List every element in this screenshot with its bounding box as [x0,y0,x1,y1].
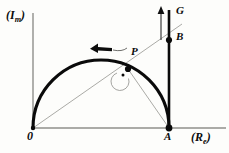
vector-g-label: G [176,5,184,16]
y-axis-label: (Im) [6,9,25,25]
semicircle-arc [33,60,169,128]
origin-label: 0 [27,130,33,142]
direction-arrow [90,44,112,54]
point-p-label: P [131,46,138,57]
point-p-marker [125,66,131,72]
figure-canvas: (Im) (Re) 0 A P B G [0,0,229,153]
right-angle-arc-marker [111,73,129,90]
x-axis-label: (Re) [191,131,211,147]
point-b-marker [166,37,172,43]
vector-g-arrowhead [158,6,165,14]
arrow-tangent-whisker [113,48,127,51]
point-a-label: A [164,131,171,142]
right-angle-dot [122,74,125,77]
point-b-label: B [176,31,183,42]
